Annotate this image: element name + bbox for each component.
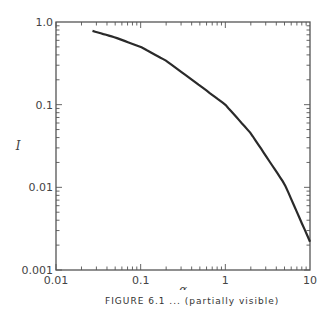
tick-labels: 0.010.11100.0010.010.11.0: [22, 16, 318, 287]
svg-text:1: 1: [222, 274, 229, 287]
svg-text:0.01: 0.01: [29, 181, 54, 194]
plot-frame: [56, 22, 310, 270]
svg-text:0.1: 0.1: [36, 99, 54, 112]
x-axis-label: α: [179, 283, 187, 290]
data-series-line: [93, 31, 311, 242]
svg-text:10: 10: [303, 274, 317, 287]
figure-caption: FIGURE 6.1 ... (partially visible): [105, 296, 279, 306]
svg-text:1.0: 1.0: [36, 16, 54, 29]
svg-text:0.1: 0.1: [132, 274, 150, 287]
svg-text:0.001: 0.001: [22, 264, 54, 277]
axis-ticks: [56, 22, 310, 270]
y-axis-label: I: [15, 139, 21, 153]
log-log-chart: 0.010.11100.0010.010.11.0 α I: [0, 0, 328, 290]
